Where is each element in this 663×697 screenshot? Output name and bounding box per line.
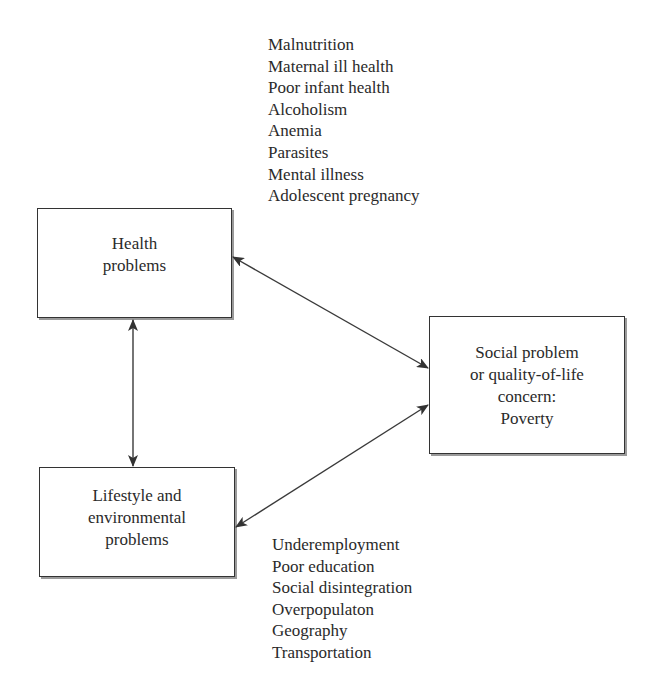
lifestyle-social-double-arrow bbox=[236, 405, 428, 527]
social-problem-label: Social problem or quality-of-life concer… bbox=[470, 342, 584, 430]
lifestyle-factor-item: Overpopulaton bbox=[272, 599, 412, 621]
social-problem-label-line: Social problem bbox=[475, 342, 578, 364]
lifestyle-factor-item: Social disintegration bbox=[272, 577, 412, 599]
health-problems-label: Health problems bbox=[103, 233, 166, 277]
lifestyle-factor-item: Underemployment bbox=[272, 534, 412, 556]
social-problem-label-line: Poverty bbox=[501, 408, 554, 430]
lifestyle-factors-list: Underemployment Poor education Social di… bbox=[272, 534, 412, 664]
lifestyle-factor-item: Transportation bbox=[272, 642, 412, 664]
health-factor-item: Maternal ill health bbox=[268, 56, 420, 78]
health-problems-label-line: Health bbox=[112, 233, 157, 255]
social-problem-label-line: concern: bbox=[498, 386, 557, 408]
health-factor-item: Poor infant health bbox=[268, 77, 420, 99]
lifestyle-factor-item: Geography bbox=[272, 620, 412, 642]
social-problem-label-line: or quality-of-life bbox=[470, 364, 584, 386]
lifestyle-environmental-box: Lifestyle and environmental problems bbox=[39, 467, 235, 577]
lifestyle-label-line: Lifestyle and bbox=[92, 485, 181, 507]
health-factors-list: Malnutrition Maternal ill health Poor in… bbox=[268, 34, 420, 207]
health-problems-box: Health problems bbox=[37, 208, 232, 318]
lifestyle-environmental-label: Lifestyle and environmental problems bbox=[88, 485, 186, 551]
lifestyle-label-line: problems bbox=[105, 529, 168, 551]
health-social-double-arrow bbox=[233, 257, 428, 368]
lifestyle-factor-item: Poor education bbox=[272, 556, 412, 578]
lifestyle-label-line: environmental bbox=[88, 507, 186, 529]
health-factor-item: Parasites bbox=[268, 142, 420, 164]
health-problems-label-line: problems bbox=[103, 255, 166, 277]
health-factor-item: Alcoholism bbox=[268, 99, 420, 121]
health-factor-item: Anemia bbox=[268, 120, 420, 142]
health-factor-item: Mental illness bbox=[268, 164, 420, 186]
health-factor-item: Malnutrition bbox=[268, 34, 420, 56]
social-problem-box: Social problem or quality-of-life concer… bbox=[429, 316, 625, 454]
health-factor-item: Adolescent pregnancy bbox=[268, 185, 420, 207]
